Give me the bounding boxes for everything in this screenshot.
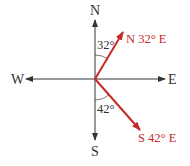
compass-diagram: N S E W 32° 42° N 32° E S 42° E <box>0 0 190 166</box>
bearing-label-n32e: N 32° E <box>126 32 167 46</box>
label-south: S <box>91 144 99 159</box>
bearing-label-s42e: S 42° E <box>138 131 177 145</box>
label-east: E <box>168 72 177 87</box>
angle-label-32: 32° <box>97 38 115 52</box>
label-west: W <box>11 72 25 87</box>
angle-arc-32 <box>95 55 108 59</box>
label-north: N <box>90 3 100 18</box>
angle-arc-42 <box>95 95 109 100</box>
angle-label-42: 42° <box>97 102 115 116</box>
